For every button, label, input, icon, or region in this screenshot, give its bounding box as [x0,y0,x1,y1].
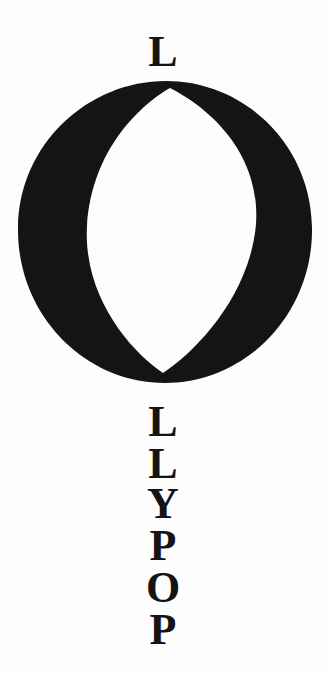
stack-letter-1: L [133,446,193,482]
stack-letter-5: P [133,612,193,648]
stack-letter-0: L [133,404,193,440]
big-o-path-group [18,81,312,383]
lollypop-artwork: L L L Y P O P [0,0,328,674]
stack-letter-2: Y [133,486,193,522]
letter-top-l: L [0,30,327,74]
big-o-svg [0,78,328,388]
big-o-glyph [0,78,328,388]
stack-letter-4: O [133,570,193,606]
stack-letter-3: P [133,528,193,564]
big-o-outline-path [18,81,312,383]
letter-stack: L L Y P O P [0,400,328,650]
